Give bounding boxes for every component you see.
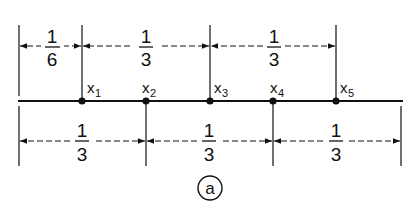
point-subscript: 2 [150,87,156,99]
dimension-bottom-1-3-b: 1 3 [147,120,272,165]
dimension-bottom-1-3-c: 1 3 [274,120,400,165]
fraction-denominator: 3 [269,49,280,70]
figure-label-text: a [205,179,215,198]
fraction-numerator: 1 [331,120,342,141]
fraction-numerator: 1 [77,120,88,141]
fraction-denominator: 3 [77,144,88,165]
dimension-top-1-6: 1 6 [20,26,81,70]
figure-label: a [198,176,222,200]
dimension-top-1-3-a: 1 3 [83,26,209,70]
fraction-denominator: 3 [204,144,215,165]
fraction-numerator: 1 [141,26,152,47]
fraction-numerator: 1 [204,120,215,141]
point-subscript: 3 [222,87,228,99]
point-label: x [142,79,150,96]
fraction-numerator: 1 [269,26,280,47]
point-subscript: 4 [278,87,284,99]
fraction-denominator: 3 [141,49,152,70]
point-label: x [87,79,95,96]
point-label: x [214,79,222,96]
point-subscript: 5 [348,87,354,99]
point-label: x [270,79,278,96]
dimension-top-1-3-b: 1 3 [211,26,335,70]
fraction-denominator: 6 [47,49,58,70]
interval-diagram: 1 6 1 3 1 3 x 1 x 2 x 3 x 4 x [0,0,413,213]
point-label: x [340,79,348,96]
dimension-bottom-1-3-a: 1 3 [20,120,145,165]
fraction-denominator: 3 [331,144,342,165]
point-subscript: 1 [95,87,101,99]
fraction-numerator: 1 [47,26,58,47]
